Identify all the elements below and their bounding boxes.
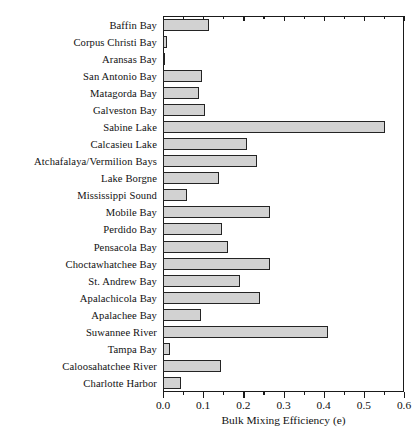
- bar-track: [163, 358, 404, 375]
- bar-track: [163, 289, 404, 306]
- x-tick-label: 0.6: [397, 399, 411, 411]
- x-tick-minor: [183, 392, 184, 395]
- category-label: Aransas Bay: [102, 53, 157, 64]
- bar-track: [163, 255, 404, 272]
- bar-track: [163, 136, 404, 153]
- bar: [163, 172, 219, 184]
- bar-row: Charlotte Harbor: [0, 375, 419, 392]
- category-label: Corpus Christi Bay: [73, 36, 157, 47]
- bulk-mixing-efficiency-chart: Baffin BayCorpus Christi BayAransas BayS…: [0, 0, 419, 446]
- bar-track: [163, 306, 404, 323]
- bar-row: Calcasieu Lake: [0, 136, 419, 153]
- bar: [163, 241, 228, 253]
- category-label: Mississippi Sound: [77, 190, 157, 201]
- bar-row: Perdido Bay: [0, 221, 419, 238]
- bar: [163, 258, 270, 270]
- bar: [163, 309, 201, 321]
- bar: [163, 343, 170, 355]
- x-tick-minor: [223, 392, 224, 395]
- bar-row: Atchafalaya/Vermilion Bays: [0, 153, 419, 170]
- bar: [163, 104, 205, 116]
- bar-row: Aransas Bay: [0, 50, 419, 67]
- x-tick-major: [284, 392, 285, 398]
- bar: [163, 138, 247, 150]
- bar-track: [163, 221, 404, 238]
- bar-track: [163, 238, 404, 255]
- x-tick-label: 0.0: [156, 399, 170, 411]
- bar-track: [163, 50, 404, 67]
- bar-track: [163, 67, 404, 84]
- bar-row: Apalachicola Bay: [0, 289, 419, 306]
- bar-row: San Antonio Bay: [0, 67, 419, 84]
- x-tick-minor: [344, 392, 345, 395]
- x-tick-label: 0.1: [196, 399, 210, 411]
- category-label: Tampa Bay: [108, 344, 157, 355]
- bar: [163, 70, 202, 82]
- category-label: Caloosahatchee River: [62, 361, 157, 372]
- bar-track: [163, 101, 404, 118]
- category-label: Suwannee River: [86, 326, 157, 337]
- category-label: Lake Borgne: [101, 173, 157, 184]
- category-label: Sabine Lake: [103, 122, 157, 133]
- bar-row: Baffin Bay: [0, 16, 419, 33]
- x-tick-label: 0.4: [317, 399, 331, 411]
- category-label: Baffin Bay: [109, 19, 157, 30]
- bar-track: [163, 340, 404, 357]
- category-label: Atchafalaya/Vermilion Bays: [34, 156, 157, 167]
- bar: [163, 155, 257, 167]
- bar: [163, 292, 260, 304]
- bar-row: Corpus Christi Bay: [0, 33, 419, 50]
- bar-track: [163, 16, 404, 33]
- bar-row: Sabine Lake: [0, 118, 419, 135]
- bar-track: [163, 33, 404, 50]
- category-label: St. Andrew Bay: [88, 275, 157, 286]
- bar: [163, 36, 167, 48]
- category-label: Apalachee Bay: [91, 309, 157, 320]
- x-tick-major: [203, 392, 204, 398]
- bar-row: Galveston Bay: [0, 101, 419, 118]
- x-tick-major: [364, 392, 365, 398]
- x-tick-label: 0.3: [276, 399, 290, 411]
- bar-row: Lake Borgne: [0, 170, 419, 187]
- x-tick-major: [324, 392, 325, 398]
- x-tick-minor: [304, 392, 305, 395]
- bar-row: Caloosahatchee River: [0, 358, 419, 375]
- category-label: Mobile Bay: [106, 207, 157, 218]
- bar: [163, 53, 165, 65]
- bar-track: [163, 153, 404, 170]
- bar-row: Mississippi Sound: [0, 187, 419, 204]
- bar-row: Matagorda Bay: [0, 84, 419, 101]
- x-tick-major: [163, 392, 164, 398]
- bar: [163, 326, 328, 338]
- bar: [163, 121, 385, 133]
- bar: [163, 275, 240, 287]
- x-tick-label: 0.2: [236, 399, 250, 411]
- bar-track: [163, 375, 404, 392]
- x-tick-minor: [384, 392, 385, 395]
- category-label: San Antonio Bay: [83, 70, 157, 81]
- bar-track: [163, 118, 404, 135]
- bar-row: Choctawhatchee Bay: [0, 255, 419, 272]
- bar: [163, 189, 187, 201]
- bar-track: [163, 204, 404, 221]
- bar-track: [163, 272, 404, 289]
- x-tick-minor: [263, 392, 264, 395]
- category-label: Matagorda Bay: [90, 87, 157, 98]
- bar: [163, 360, 221, 372]
- x-tick-label: 0.5: [357, 399, 371, 411]
- category-label: Apalachicola Bay: [80, 292, 157, 303]
- bar: [163, 19, 209, 31]
- category-label: Choctawhatchee Bay: [65, 258, 157, 269]
- bar-track: [163, 170, 404, 187]
- category-label: Charlotte Harbor: [83, 378, 157, 389]
- bar-row: Apalachee Bay: [0, 306, 419, 323]
- bar-track: [163, 84, 404, 101]
- x-axis-ticks: [163, 392, 404, 399]
- bar-rows: Baffin BayCorpus Christi BayAransas BayS…: [0, 16, 419, 392]
- x-axis-tick-labels: 0.00.10.20.30.40.50.6: [0, 399, 419, 415]
- bar-track: [163, 323, 404, 340]
- bar-row: Pensacola Bay: [0, 238, 419, 255]
- bar-row: Tampa Bay: [0, 340, 419, 357]
- bar-row: Mobile Bay: [0, 204, 419, 221]
- bar: [163, 206, 270, 218]
